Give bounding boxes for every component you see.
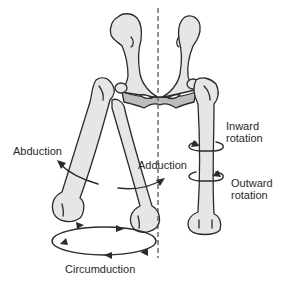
left-femoral-head [115,83,127,93]
adduction-label: Adduction [138,160,187,171]
pelvis-floor [122,92,196,108]
circ-arrowhead-2-icon [116,225,124,232]
inward-rotation-label-line2: rotation [226,133,263,144]
outward-rotation-label-line1: Outward [231,178,273,189]
circ-arrowhead-4-icon [104,252,112,259]
inward-rotation-label-line1: Inward [226,121,259,132]
hip-movements-diagram: Abduction Adduction Inward rotation Outw… [0,0,283,281]
circ-arrowhead-5-icon [60,238,68,245]
outward-rotation-label-line2: rotation [231,190,268,201]
abduction-label: Abduction [13,146,62,157]
circumduction-path [52,227,156,255]
circumduction-label: Circumduction [65,264,135,275]
